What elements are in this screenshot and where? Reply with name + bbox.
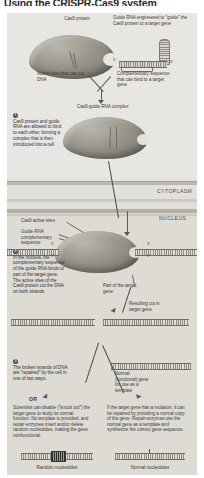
label-cytoplasm: CYTOPLASM <box>157 189 192 195</box>
crispr-diagram-page: Using the CRISPR-Cas9 system Cas9 protei… <box>0 0 204 478</box>
label-cas9-protein: Cas9 protein <box>47 16 107 22</box>
step-2: 2In the nucleus, the complementary seque… <box>13 249 65 295</box>
random-insert-segment <box>51 451 66 462</box>
label-normal-gene-template: Normal (functional) gene for use as a te… <box>115 371 151 393</box>
label-5-prime-rna: 5' <box>113 57 116 62</box>
label-cas9-guide-rna-complex: Cas9-guide RNA complex <box>77 104 155 110</box>
label-part-of-target-gene: Part of the target gene <box>103 283 137 294</box>
label-cas9-active-sites: Cas9 active sites <box>21 218 67 224</box>
label-5-prime-dna-right: 5' <box>147 253 150 258</box>
label-normal-nucleotides: Normal nucleotides <box>113 465 187 471</box>
label-3-prime-rna: 3' <box>170 59 173 64</box>
label-active-sites: Active sites that can cut DNA <box>37 71 87 82</box>
cell-membrane-outer <box>7 181 197 185</box>
cell-membrane-inner <box>7 199 197 202</box>
cas9-guide-rna-complex-shape <box>63 117 147 159</box>
cas9-bound-to-dna-shape <box>55 231 139 273</box>
target-dna-right <box>135 249 197 256</box>
step-1-text: Cas9 protein and guide RNA are allowed t… <box>13 119 63 148</box>
step-3: 3The broken strands of DNA are "repaired… <box>13 359 71 382</box>
label-or: OR <box>29 396 37 402</box>
label-guide-rna-engineered: Guide RNA engineered to "guide" the Cas9… <box>113 15 193 26</box>
converge-arrow-right <box>97 76 111 92</box>
step-3-text: The broken strands of DNA are "repaired"… <box>13 365 71 382</box>
step-2-number: 2 <box>13 249 18 254</box>
label-3-prime-dna-right: 3' <box>147 241 150 246</box>
complex-rna-line-2 <box>116 127 117 149</box>
cas9-cleft-notch <box>103 53 119 66</box>
entry-arrow-head <box>124 232 130 236</box>
nuclear-envelope-outer <box>7 209 197 213</box>
cut-dna-strand-right <box>103 319 189 326</box>
step-1: 1Cas9 protein and guide RNA are allowed … <box>13 113 63 147</box>
outcome-repair-text: If the target gene has a mutation, it ca… <box>107 405 187 433</box>
label-random-nucleotides: Random nucleotides <box>21 465 93 471</box>
cut-dna-strand-left <box>11 319 95 326</box>
normal-gene-template-strand <box>111 363 191 370</box>
figure-panel: Cas9 protein Active sites that can cut D… <box>7 13 197 475</box>
repair-site-tick <box>149 449 150 453</box>
outcome-knockout-text: Scientists can disable ("knock out") the… <box>13 405 91 439</box>
step-1-number: 1 <box>13 113 18 118</box>
repaired-result-dna <box>115 453 185 460</box>
label-5-prime-dna-left: 5' <box>51 241 54 246</box>
complex-cleft-notch <box>137 134 150 145</box>
label-nucleus: NUCLEUS <box>159 216 186 222</box>
label-complementary-sequence: Complementary sequence that can bind to … <box>117 71 171 88</box>
step-2-text: In the nucleus, the complementary sequen… <box>13 255 65 295</box>
page-title: Using the CRISPR-Cas9 system <box>4 0 200 6</box>
label-resulting-cut: Resulting cut in target gene <box>129 301 169 312</box>
step-3-number: 3 <box>13 359 18 364</box>
